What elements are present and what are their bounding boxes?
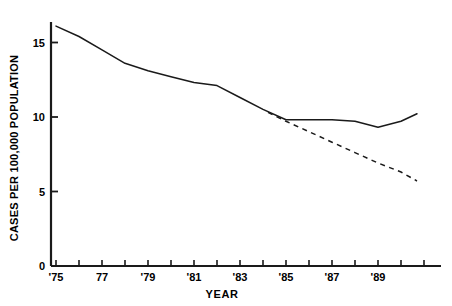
series-observed-line (56, 26, 417, 127)
x-tick-label-1975: '75 (49, 271, 64, 283)
chart-canvas: 15 10 5 0 '75 77 (0, 0, 452, 306)
y-axis-title: CASES PER 100,000 POPULATION (8, 55, 20, 241)
x-tick-label-1977: 77 (96, 271, 108, 283)
x-tick-label-1985: '85 (279, 271, 294, 283)
x-tick-label-1979: '79 (141, 271, 156, 283)
x-tick-label-1987: '87 (325, 271, 340, 283)
y-tick-label-0: 0 (39, 260, 45, 272)
chart-figure: 15 10 5 0 '75 77 (0, 0, 452, 306)
y-tick-label-15: 15 (33, 37, 45, 49)
x-tick-label-1981: '81 (187, 271, 202, 283)
x-axis-title: YEAR (206, 288, 239, 300)
x-tick-label-1989: '89 (371, 271, 386, 283)
y-tick-label-10: 10 (33, 111, 45, 123)
y-tick-label-5: 5 (39, 186, 45, 198)
y-axis-tick-labels: 15 10 5 0 (33, 37, 45, 273)
x-tick-label-1983: '83 (233, 271, 248, 283)
x-axis-tick-labels: '75 77 '79 '81 '83 '85 '87 '89 (49, 271, 386, 283)
